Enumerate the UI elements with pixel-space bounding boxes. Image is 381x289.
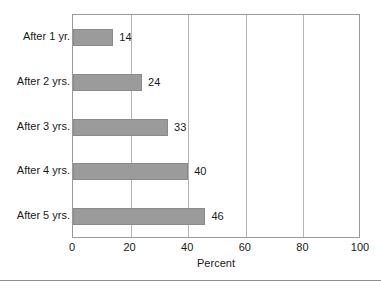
x-tick-label-80: 80	[296, 241, 308, 253]
bar-value-label: 24	[148, 74, 160, 91]
category-axis: After 1 yr.After 2 yrs.After 3 yrs.After…	[0, 14, 70, 238]
category-label: After 4 yrs.	[2, 162, 70, 179]
bar-chart-figure: After 1 yr.After 2 yrs.After 3 yrs.After…	[0, 0, 381, 289]
category-label: After 5 yrs.	[2, 207, 70, 224]
x-axis-title: Percent	[72, 257, 360, 269]
bar-value-label: 14	[119, 29, 131, 46]
category-label: After 3 yrs.	[2, 118, 70, 135]
bar-4	[73, 163, 188, 180]
bar-row: 24	[73, 74, 361, 91]
bar-row: 46	[73, 208, 361, 225]
bottom-divider	[0, 280, 381, 281]
bar-2	[73, 74, 142, 91]
x-tick-label-0: 0	[69, 241, 75, 253]
x-axis-ticks: 020406080100	[72, 238, 360, 256]
bars-layer: 1424334046	[73, 15, 359, 237]
category-label: After 2 yrs.	[2, 73, 70, 90]
bar-value-label: 46	[211, 208, 223, 225]
x-tick-label-40: 40	[181, 241, 193, 253]
x-tick-label-60: 60	[239, 241, 251, 253]
bar-5	[73, 208, 205, 225]
x-tick-label-20: 20	[123, 241, 135, 253]
bar-1	[73, 29, 113, 46]
plot-area: 1424334046	[72, 14, 360, 238]
bar-3	[73, 119, 168, 136]
bar-value-label: 40	[194, 163, 206, 180]
x-tick-label-100: 100	[351, 241, 369, 253]
category-label: After 1 yr.	[2, 28, 70, 45]
bar-row: 40	[73, 163, 361, 180]
bar-row: 14	[73, 29, 361, 46]
bar-value-label: 33	[174, 119, 186, 136]
bar-row: 33	[73, 119, 361, 136]
